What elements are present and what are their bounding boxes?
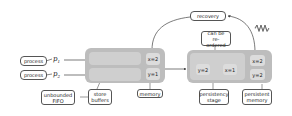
p2-variable: p2 [53, 70, 60, 79]
persistency-stage-caption: persistency stage [199, 89, 229, 105]
memory-caption: memory [137, 89, 163, 98]
process-2-label: process [20, 70, 47, 80]
memory-cell-x: x=2 [146, 53, 160, 65]
persistency-cell-y: y=2 [196, 64, 210, 75]
p1-variable: p1 [53, 55, 60, 64]
persistency-cell-x: x=1 [223, 64, 237, 75]
unbounded-fifo-note: unbounded FIFO [41, 90, 75, 105]
persistent-memory-caption: persistent memory [242, 89, 272, 105]
reorder-note: can be re-ordered [201, 31, 231, 46]
process-1-label: process [20, 56, 47, 66]
store-buffer-2 [89, 68, 141, 81]
store-buffers-caption: store buffers [88, 89, 112, 105]
persistent-memory-cell-y: y=2 [250, 69, 265, 80]
zigzag-crash-icon [254, 24, 270, 32]
memory-cell-y: y=1 [146, 68, 160, 80]
store-buffer-1 [89, 52, 141, 65]
recovery-node: recovery [190, 11, 226, 21]
persistent-memory-cell-x: x=2 [250, 55, 265, 66]
